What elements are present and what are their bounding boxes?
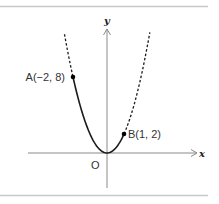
curve-dashed-right: [124, 32, 150, 134]
origin-label: O: [91, 159, 100, 171]
point-a-label: A(−2, 8): [26, 71, 65, 83]
point-b: [122, 132, 127, 137]
curve-dashed-left: [65, 34, 74, 77]
point-a: [71, 75, 76, 80]
curve-solid: [73, 77, 124, 153]
parabola-diagram: x y O A(−2, 8) B(1, 2): [0, 0, 219, 204]
point-b-label: B(1, 2): [128, 128, 161, 140]
y-axis-label: y: [103, 15, 111, 26]
x-axis-label: x: [198, 148, 206, 159]
